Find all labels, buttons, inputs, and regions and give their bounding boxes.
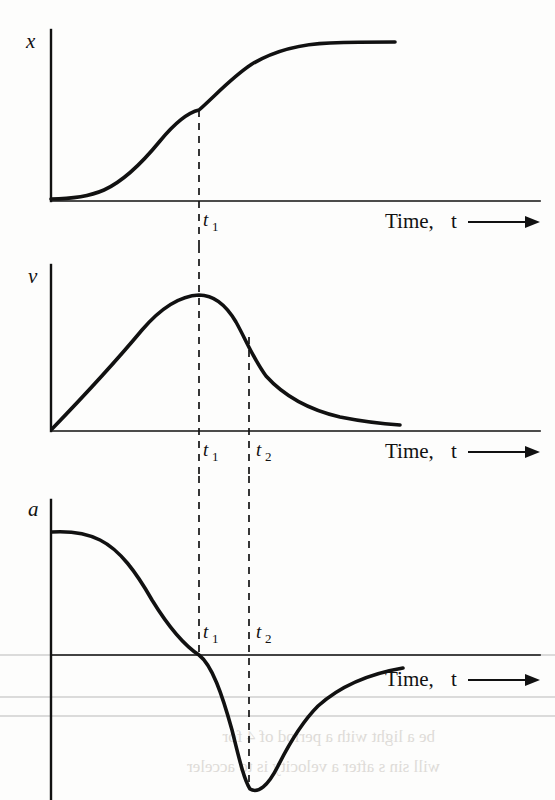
time-arrow-head-position <box>525 216 540 228</box>
y-axis-label-acceleration: a <box>28 497 39 521</box>
t1-tick-label-position: t 1 <box>203 209 219 234</box>
time-axis-label-acceleration: Time, t <box>385 667 540 691</box>
t1-label-base-velocity: t <box>203 439 209 460</box>
time-label-variable-acceleration: t <box>451 667 457 691</box>
time-label-text-position: Time, <box>385 209 434 233</box>
t2-label-subscript-velocity: 2 <box>265 449 272 464</box>
y-axis-label-position: x <box>25 29 36 53</box>
position-curve <box>51 42 395 199</box>
panel-position: x t 1 Time, t <box>25 29 540 246</box>
figure-canvas: be a light with a period of 4 for will s… <box>0 0 555 800</box>
t2-tick-label-acceleration: t 2 <box>256 621 272 646</box>
time-arrow-head-velocity <box>525 446 540 458</box>
scan-artifact-layer: be a light with a period of 4 for will s… <box>0 655 555 776</box>
panel-velocity: v t 1 t 2 Time, t <box>28 246 540 476</box>
t1-label-base-acceleration: t <box>203 621 209 642</box>
time-label-variable-position: t <box>451 209 457 233</box>
time-label-text-velocity: Time, <box>385 439 434 463</box>
bleed-text-line-2: will sin s after a velocity is to accele… <box>187 757 440 776</box>
motion-graphs-figure: be a light with a period of 4 for will s… <box>0 0 555 800</box>
velocity-curve <box>52 295 400 429</box>
t2-label-subscript-acceleration: 2 <box>265 631 272 646</box>
t1-label-subscript: 1 <box>212 219 219 234</box>
panel-acceleration: a t 1 t 2 Time, t <box>28 476 540 800</box>
time-axis-label-position: Time, t <box>385 209 540 233</box>
time-label-variable-velocity: t <box>451 439 457 463</box>
t2-tick-label-velocity: t 2 <box>256 439 272 464</box>
t1-label-subscript-velocity: 1 <box>212 449 219 464</box>
t1-tick-label-acceleration: t 1 <box>203 621 219 646</box>
t1-tick-label-velocity: t 1 <box>203 439 219 464</box>
time-axis-label-velocity: Time, t <box>385 439 540 463</box>
t1-label-subscript-acceleration: 1 <box>212 631 219 646</box>
y-axis-label-velocity: v <box>28 264 38 288</box>
time-arrow-head-acceleration <box>525 674 540 686</box>
bleed-text-line-1: be a light with a period of 4 for <box>222 727 435 746</box>
t2-label-base-velocity: t <box>256 439 262 460</box>
time-label-text-acceleration: Time, <box>385 667 434 691</box>
acceleration-curve <box>52 532 403 791</box>
t2-label-base-acceleration: t <box>256 621 262 642</box>
t1-label-base: t <box>203 209 209 230</box>
